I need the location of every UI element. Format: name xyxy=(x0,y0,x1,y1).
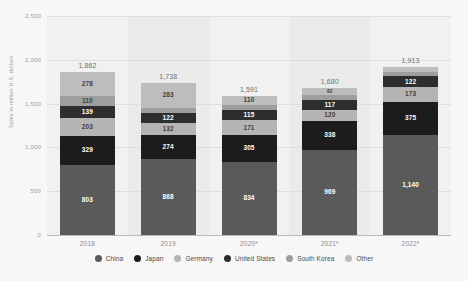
bar-segment-value-label: 329 xyxy=(82,147,93,154)
bar-stack[interactable]: 96933812011754821,680 xyxy=(302,88,357,235)
legend-label: China xyxy=(106,255,123,262)
bar-segment[interactable]: 56 xyxy=(222,105,277,110)
bar-segment-value-label: 803 xyxy=(82,197,93,204)
x-axis-tick-label: 2018 xyxy=(80,240,95,247)
y-axis-title: Sales in million U.S. dollars xyxy=(8,56,14,128)
bar-segment-value-label: 834 xyxy=(243,195,254,202)
bar-segment[interactable]: 375 xyxy=(383,102,438,135)
legend: ChinaJapanGermanyUnited StatesSouth Kore… xyxy=(0,255,468,262)
bar-segment[interactable]: 171 xyxy=(222,120,277,135)
bar-segment[interactable]: 59 xyxy=(141,108,196,113)
bar-segment-value-label: 122 xyxy=(405,79,416,86)
bar-total-label: 1,738 xyxy=(159,73,177,80)
legend-color-swatch-icon xyxy=(345,255,352,262)
bar-segment[interactable]: 132 xyxy=(141,123,196,135)
bar-segment-value-label: 278 xyxy=(82,81,93,88)
bar-segment[interactable]: 54 xyxy=(302,95,357,100)
legend-item[interactable]: Japan xyxy=(134,255,163,262)
bar-segment-value-label: 132 xyxy=(163,126,174,133)
legend-item[interactable]: Germany xyxy=(174,255,212,262)
y-axis-tick-label: 2,000 xyxy=(25,57,41,63)
bar-segment[interactable]: 868 xyxy=(141,159,196,235)
bar-stack[interactable]: 8033292031391102781,862 xyxy=(60,72,115,235)
bar-stack[interactable]: 868274132122592831,738 xyxy=(141,83,196,235)
bar-stack[interactable]: 834305171115561101,591 xyxy=(222,96,277,235)
bar-segment[interactable]: 52 xyxy=(383,67,438,72)
bar-segment[interactable]: 305 xyxy=(222,135,277,162)
bar-segment-value-label: 173 xyxy=(405,91,416,98)
legend-item[interactable]: Other xyxy=(345,255,373,262)
bar-segment-value-label: 274 xyxy=(163,144,174,151)
bar-segment[interactable]: 338 xyxy=(302,121,357,151)
legend-label: United States xyxy=(235,255,275,262)
legend-color-swatch-icon xyxy=(174,255,181,262)
x-axis-tick-label: 2022* xyxy=(402,240,420,247)
y-axis-tick-label: 500 xyxy=(30,188,41,194)
legend-label: Other xyxy=(356,255,373,262)
bar-segment[interactable]: 122 xyxy=(383,76,438,87)
y-axis-tick-label: 1,500 xyxy=(25,101,41,107)
bar-segment[interactable]: 110 xyxy=(222,96,277,106)
legend-color-swatch-icon xyxy=(224,255,231,262)
x-axis-tick-label: 2019 xyxy=(161,240,176,247)
bar-segment-value-label: 203 xyxy=(82,124,93,131)
bar-segment-value-label: 868 xyxy=(163,194,174,201)
plot-area: 05001,0001,5002,0002,500 803329203139110… xyxy=(47,16,451,235)
bar-segment[interactable]: 82 xyxy=(302,88,357,95)
legend-color-swatch-icon xyxy=(286,255,293,262)
bar-segment[interactable]: 122 xyxy=(141,113,196,124)
bar-segment[interactable]: 51 xyxy=(383,72,438,76)
bar-segment[interactable]: 1,140 xyxy=(383,135,438,235)
legend-item[interactable]: China xyxy=(95,255,123,262)
bar-segment-value-label: 82 xyxy=(327,89,333,94)
bar-segment[interactable]: 278 xyxy=(60,72,115,96)
x-axis-tick-label: 2020* xyxy=(240,240,258,247)
x-axis-tick-label: 2021* xyxy=(321,240,339,247)
legend-label: South Korea xyxy=(297,255,334,262)
y-axis-tick-label: 0 xyxy=(37,232,41,238)
bar-segment[interactable]: 173 xyxy=(383,87,438,102)
bar-segment[interactable]: 139 xyxy=(60,106,115,118)
bar-total-label: 1,862 xyxy=(78,62,96,69)
bar-segment[interactable]: 110 xyxy=(60,96,115,106)
bar-segment[interactable]: 329 xyxy=(60,136,115,165)
bar-segment[interactable]: 274 xyxy=(141,135,196,159)
legend-color-swatch-icon xyxy=(134,255,141,262)
stacked-bar-chart: Sales in million U.S. dollars 05001,0001… xyxy=(0,0,468,281)
legend-label: Germany xyxy=(185,255,212,262)
bar-segment[interactable]: 283 xyxy=(141,83,196,108)
bar-total-label: 1,913 xyxy=(402,57,420,64)
bar-segment[interactable]: 969 xyxy=(302,150,357,235)
legend-item[interactable]: South Korea xyxy=(286,255,334,262)
bar-segment-value-label: 171 xyxy=(243,125,254,132)
bar-segment[interactable]: 834 xyxy=(222,162,277,235)
bar-segment-value-label: 375 xyxy=(405,115,416,122)
bar-stack[interactable]: 1,14037517312251521,913 xyxy=(383,67,438,235)
bar-segment[interactable]: 803 xyxy=(60,165,115,235)
bar-segment[interactable]: 117 xyxy=(302,100,357,110)
bar-segment[interactable]: 203 xyxy=(60,118,115,136)
bar-segment-value-label: 283 xyxy=(163,92,174,99)
y-axis-tick-label: 1,000 xyxy=(25,144,41,150)
bar-segment[interactable]: 120 xyxy=(302,110,357,121)
gridline xyxy=(47,235,451,236)
bar-segment[interactable]: 115 xyxy=(222,110,277,120)
bar-segment-value-label: 969 xyxy=(324,189,335,196)
bar-segment-value-label: 122 xyxy=(163,115,174,122)
bar-segment-value-label: 338 xyxy=(324,132,335,139)
y-axis-tick-label: 2,500 xyxy=(25,13,41,19)
legend-color-swatch-icon xyxy=(95,255,102,262)
legend-label: Japan xyxy=(145,255,163,262)
bar-series-container: 8033292031391102781,86286827413212259283… xyxy=(47,16,451,235)
legend-item[interactable]: United States xyxy=(224,255,275,262)
bar-segment-value-label: 117 xyxy=(324,102,335,109)
bar-segment-value-label: 120 xyxy=(324,112,335,119)
bar-segment-value-label: 110 xyxy=(244,97,255,104)
bar-total-label: 1,591 xyxy=(240,86,258,93)
bar-segment-value-label: 110 xyxy=(82,98,93,105)
bar-total-label: 1,680 xyxy=(321,78,339,85)
bar-segment-value-label: 115 xyxy=(244,112,255,119)
bar-segment-value-label: 139 xyxy=(82,109,93,116)
bar-segment-value-label: 305 xyxy=(243,145,254,152)
bar-segment-value-label: 1,140 xyxy=(402,182,419,189)
